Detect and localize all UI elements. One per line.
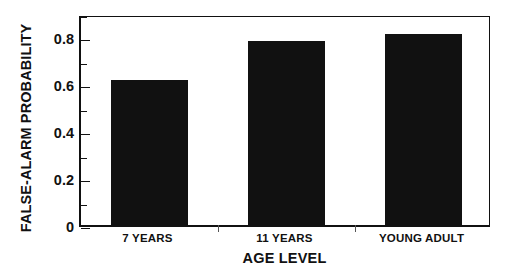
y-axis-major-tick bbox=[81, 87, 90, 88]
plot-area bbox=[79, 16, 490, 227]
y-axis-major-tick bbox=[81, 134, 90, 135]
bar bbox=[385, 34, 462, 225]
x-axis-tick-labels: 7 YEARS11 YEARSYOUNG ADULT bbox=[79, 232, 490, 250]
bar-chart-figure: FALSE-ALARM PROBABILITY 00.20.40.60.8 7 … bbox=[0, 0, 517, 273]
y-axis-tick-label: 0.8 bbox=[40, 32, 74, 47]
y-axis-major-tick bbox=[81, 228, 90, 229]
y-axis-tick-labels: 00.20.40.60.8 bbox=[38, 0, 74, 273]
x-axis-tick bbox=[218, 225, 219, 232]
x-axis-tick-label: YOUNG ADULT bbox=[379, 232, 464, 244]
y-axis-tick-label: 0 bbox=[40, 220, 74, 235]
x-axis-tick-label: 7 YEARS bbox=[122, 232, 172, 244]
y-axis-minor-tick bbox=[81, 158, 87, 159]
bar bbox=[248, 41, 325, 225]
x-axis-tick-label: 11 YEARS bbox=[256, 232, 312, 244]
y-axis-tick-label: 0.2 bbox=[40, 173, 74, 188]
y-axis-minor-tick bbox=[81, 111, 87, 112]
bar bbox=[111, 80, 188, 225]
y-axis-title: FALSE-ALARM PROBABILITY bbox=[13, 8, 39, 248]
y-axis-minor-tick bbox=[81, 64, 87, 65]
y-axis-tick-label: 0.4 bbox=[40, 126, 74, 141]
x-axis-tick bbox=[355, 225, 356, 232]
y-axis-minor-tick bbox=[81, 205, 87, 206]
bars-layer bbox=[81, 17, 489, 225]
y-axis-major-tick bbox=[81, 40, 90, 41]
x-axis-title: AGE LEVEL bbox=[79, 250, 490, 266]
y-axis-minor-tick bbox=[81, 17, 87, 18]
y-axis-tick-label: 0.6 bbox=[40, 79, 74, 94]
y-axis-major-tick bbox=[81, 181, 90, 182]
